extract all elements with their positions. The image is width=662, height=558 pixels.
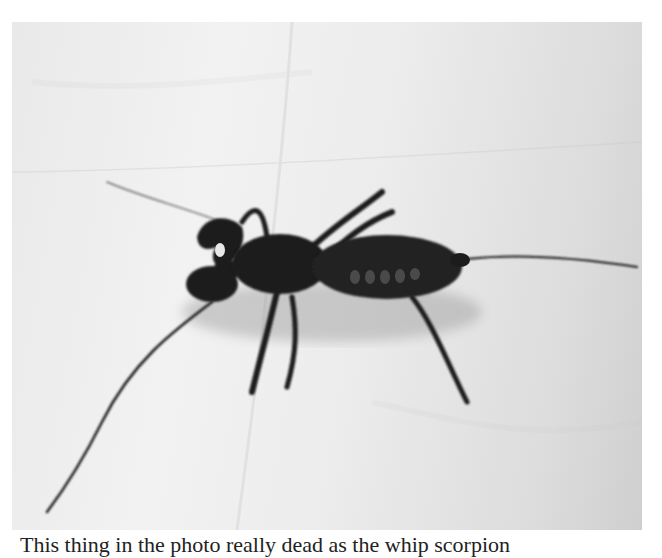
figure-caption: This thing in the photo really dead as t… [20,532,660,558]
whip-scorpion-illustration [12,22,642,530]
whip-scorpion-photo [12,22,642,530]
